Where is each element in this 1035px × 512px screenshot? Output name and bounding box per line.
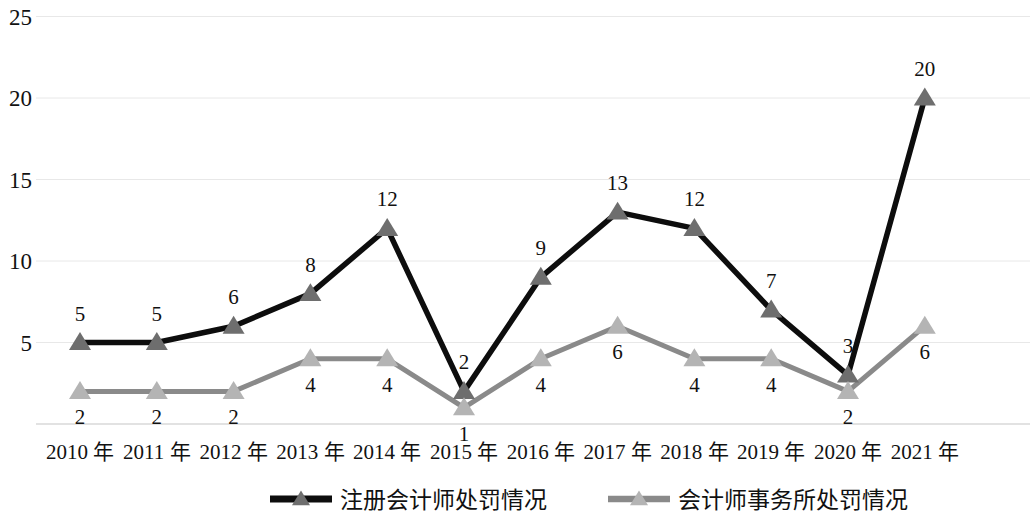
y-axis-tick-label: 20 (9, 86, 32, 111)
series-line (80, 98, 925, 391)
legend: 注册会计师处罚情况会计师事务所处罚情况 (270, 488, 908, 512)
series-marker (914, 88, 936, 106)
y-axis-tick-label: 25 (9, 5, 32, 30)
data-point-label: 9 (536, 236, 547, 260)
data-point-label: 3 (843, 334, 854, 358)
x-axis-tick-label: 2019 年 (737, 440, 805, 464)
x-axis-tick-label: 2013 年 (276, 440, 344, 464)
series-marker (607, 202, 629, 220)
legend-item[interactable]: 会计师事务所处罚情况 (608, 488, 908, 512)
legend-item[interactable]: 注册会计师处罚情况 (270, 488, 547, 512)
data-point-label: 5 (75, 302, 86, 326)
data-point-label: 2 (75, 405, 86, 429)
data-point-label: 12 (684, 187, 705, 211)
x-axis-tick-label: 2017 年 (583, 440, 651, 464)
data-point-label: 4 (382, 373, 393, 397)
x-axis-tick-label: 2014 年 (353, 440, 421, 464)
x-axis-tick-label: 2015 年 (430, 440, 498, 464)
data-point-label: 6 (612, 340, 623, 364)
series-marker (607, 316, 629, 334)
series-marker (914, 316, 936, 334)
series-lines-group (80, 98, 925, 408)
x-axis-tick-label: 2016 年 (507, 440, 575, 464)
chart-canvas: 252015105 5568122913127320222441464426 2… (0, 0, 1035, 512)
data-point-label: 2 (459, 350, 470, 374)
series-markers-group (69, 88, 936, 416)
data-point-labels-group: 5568122913127320222441464426 (75, 57, 936, 446)
y-axis-tick-label: 10 (9, 249, 32, 274)
x-axis-tick-labels: 2010 年2011 年2012 年2013 年2014 年2015 年2016… (46, 440, 959, 464)
series-marker (376, 218, 398, 236)
data-point-label: 4 (766, 373, 777, 397)
x-axis-tick-label: 2012 年 (199, 440, 267, 464)
data-point-label: 8 (305, 253, 316, 277)
x-axis-tick-label: 2018 年 (660, 440, 728, 464)
data-point-label: 20 (914, 57, 935, 81)
y-axis-tick-labels: 252015105 (9, 5, 32, 356)
data-point-label: 2 (228, 405, 239, 429)
legend-label: 会计师事务所处罚情况 (678, 488, 908, 512)
data-point-label: 4 (689, 373, 700, 397)
line-chart: 252015105 5568122913127320222441464426 2… (0, 0, 1035, 512)
legend-label: 注册会计师处罚情况 (340, 488, 547, 512)
y-axis-tick-label: 15 (9, 168, 32, 193)
data-point-label: 7 (766, 269, 777, 293)
data-point-label: 2 (843, 405, 854, 429)
data-point-label: 2 (152, 405, 163, 429)
data-point-label: 6 (228, 285, 239, 309)
data-point-label: 13 (607, 171, 628, 195)
x-axis-tick-label: 2011 年 (123, 440, 190, 464)
x-axis-tick-label: 2020 年 (814, 440, 882, 464)
data-point-label: 6 (920, 340, 931, 364)
x-axis-tick-label: 2021 年 (891, 440, 959, 464)
y-axis-tick-label: 5 (21, 331, 33, 356)
data-point-label: 5 (152, 302, 163, 326)
data-point-label: 4 (536, 373, 547, 397)
data-point-label: 4 (305, 373, 316, 397)
x-axis-tick-label: 2010 年 (46, 440, 114, 464)
data-point-label: 12 (377, 187, 398, 211)
